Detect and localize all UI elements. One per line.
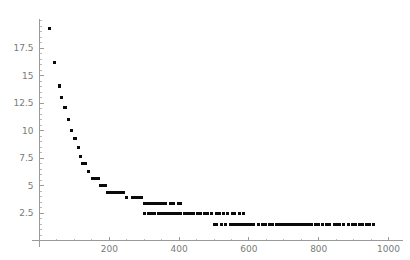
data-point — [275, 223, 278, 226]
data-point — [53, 61, 56, 64]
data-point — [299, 223, 302, 226]
data-point — [150, 212, 153, 215]
data-point — [220, 223, 223, 226]
data-point — [338, 223, 341, 226]
data-point — [287, 223, 290, 226]
data-point — [169, 202, 172, 205]
data-point — [137, 196, 140, 199]
data-point — [179, 202, 182, 205]
data-point — [173, 212, 176, 215]
data-point — [302, 223, 305, 226]
data-point — [368, 223, 371, 226]
data-point — [307, 223, 310, 226]
data-point — [293, 223, 296, 226]
data-point — [310, 223, 313, 226]
data-point — [234, 223, 237, 226]
data-point — [206, 212, 209, 215]
data-point — [84, 162, 87, 165]
data-point — [104, 184, 107, 187]
data-point — [268, 223, 271, 226]
data-point — [284, 223, 287, 226]
y-tick-label: 7.5 — [19, 153, 33, 163]
data-point — [222, 212, 225, 215]
data-point — [125, 196, 128, 199]
data-point — [354, 223, 357, 226]
data-point — [122, 191, 125, 194]
data-point — [79, 155, 82, 158]
data-point-series — [48, 27, 374, 226]
data-point — [317, 223, 320, 226]
data-point — [218, 212, 221, 215]
data-point — [143, 212, 146, 215]
scatter-plot-figure: 2.557.51012.51517.5 2004006008001000 — [0, 0, 410, 260]
data-point — [252, 223, 255, 226]
data-point — [87, 170, 90, 173]
data-point — [157, 212, 160, 215]
major-tick-marks — [40, 48, 389, 240]
y-tick-label: 10 — [22, 126, 34, 136]
data-point — [58, 85, 61, 88]
data-point — [106, 191, 109, 194]
data-point — [183, 212, 186, 215]
y-tick-label: 5 — [28, 181, 34, 191]
data-point — [249, 223, 252, 226]
data-point — [196, 212, 199, 215]
x-axis-tick-labels: 2004006008001000 — [101, 244, 401, 254]
data-point — [257, 223, 260, 226]
data-point — [70, 129, 73, 132]
data-point — [240, 223, 243, 226]
data-point — [119, 191, 122, 194]
data-point — [170, 212, 173, 215]
data-point — [372, 223, 375, 226]
data-point — [361, 223, 364, 226]
data-point — [158, 202, 161, 205]
data-point — [243, 223, 246, 226]
data-point — [242, 212, 245, 215]
data-point — [210, 212, 213, 215]
x-tick-label: 200 — [101, 244, 118, 254]
data-point — [237, 223, 240, 226]
data-point — [113, 191, 116, 194]
data-point — [314, 223, 317, 226]
plot-canvas: 2.557.51012.51517.5 2004006008001000 — [0, 0, 410, 260]
data-point — [224, 223, 227, 226]
data-point — [358, 223, 361, 226]
data-point — [351, 223, 354, 226]
x-tick-label: 400 — [171, 244, 188, 254]
x-tick-label: 1000 — [377, 244, 400, 254]
data-point — [64, 106, 67, 109]
data-point — [290, 223, 293, 226]
data-point — [179, 212, 182, 215]
data-point — [335, 223, 338, 226]
data-point — [164, 202, 167, 205]
data-point — [271, 223, 274, 226]
data-point — [238, 212, 241, 215]
data-point — [147, 212, 150, 215]
data-point — [229, 223, 232, 226]
data-point — [342, 223, 345, 226]
data-point — [261, 223, 264, 226]
data-point — [215, 212, 218, 215]
data-point — [192, 212, 195, 215]
data-point — [246, 223, 249, 226]
y-tick-label: 12.5 — [13, 98, 33, 108]
data-point — [264, 223, 267, 226]
y-tick-label: 17.5 — [13, 43, 33, 53]
data-point — [140, 196, 143, 199]
data-point — [60, 96, 63, 99]
data-point — [328, 223, 331, 226]
data-point — [153, 212, 156, 215]
minor-tick-marks — [40, 21, 372, 241]
data-point — [333, 223, 336, 226]
data-point — [226, 212, 229, 215]
data-point — [176, 212, 179, 215]
data-point — [296, 223, 299, 226]
data-point — [231, 212, 234, 215]
data-point — [116, 191, 119, 194]
data-point — [278, 223, 281, 226]
x-tick-label: 600 — [240, 244, 257, 254]
data-point — [203, 212, 206, 215]
data-point — [347, 223, 350, 226]
data-point — [167, 212, 170, 215]
y-tick-label: 2.5 — [19, 208, 33, 218]
